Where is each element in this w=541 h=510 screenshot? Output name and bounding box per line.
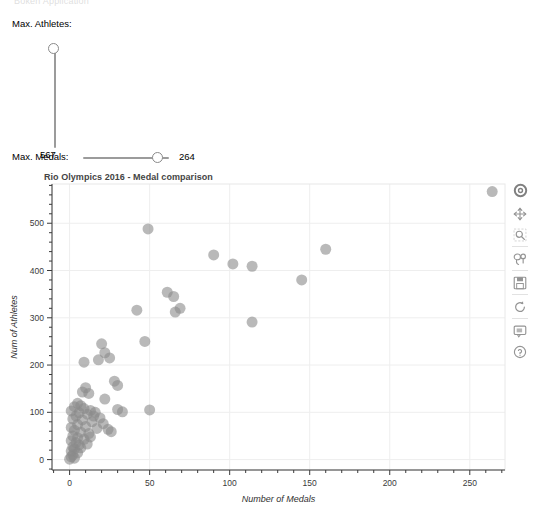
scatter-point [143, 223, 154, 234]
y-axis-title: Num of Athletes [9, 295, 19, 359]
scatter-point [227, 258, 238, 269]
toolbar-divider-4 [512, 318, 528, 319]
x-axis-tick-label: 50 [145, 478, 155, 488]
scatter-point [208, 249, 219, 260]
pan-move-icon[interactable] [509, 203, 531, 224]
max-athletes-slider-track[interactable] [54, 48, 56, 148]
max-medals-slider[interactable]: Max. Medals: 264 [12, 149, 222, 167]
bokeh-logo-icon [509, 180, 531, 201]
scatter-point [247, 317, 258, 328]
max-medals-slider-handle[interactable] [152, 152, 163, 163]
scatter-point [247, 261, 258, 272]
scatter-point [296, 274, 307, 285]
x-axis-tick-label: 200 [383, 478, 397, 488]
y-axis-tick-label: 300 [30, 313, 44, 323]
scatter-point [117, 406, 128, 417]
max-athletes-slider[interactable]: Max. Athletes: 567 [12, 18, 132, 143]
reset-icon[interactable] [509, 296, 531, 317]
save-disk-icon[interactable] [509, 272, 531, 293]
y-axis-tick-label: 500 [30, 218, 44, 228]
clipped-header-text: Bokeh Application [14, 0, 89, 6]
max-medals-slider-label: Max. Medals: [12, 151, 69, 162]
x-axis-tick-label: 100 [223, 478, 237, 488]
scatter-point [104, 352, 115, 363]
max-athletes-slider-label: Max. Athletes: [12, 18, 72, 29]
x-axis-tick-label: 0 [67, 478, 72, 488]
hover-icon[interactable] [509, 320, 531, 341]
help-icon[interactable] [509, 341, 531, 362]
scatter-plot-panel[interactable]: Rio Olympics 2016 - Medal comparison 050… [0, 172, 541, 510]
x-axis-tick-label: 250 [463, 478, 477, 488]
scatter-point [93, 354, 104, 365]
max-athletes-slider-handle[interactable] [48, 43, 59, 54]
scatter-point [112, 380, 123, 391]
scatter-point [75, 442, 86, 453]
y-axis-tick-label: 100 [30, 407, 44, 417]
bokeh-toolbar[interactable] [508, 180, 532, 362]
scatter-point [170, 307, 181, 318]
y-axis-tick-label: 400 [30, 266, 44, 276]
scatter-point [79, 357, 90, 368]
toolbar-divider-3 [512, 294, 528, 295]
toolbar-divider-1 [512, 246, 528, 247]
y-axis-tick-label: 200 [30, 360, 44, 370]
toolbar-divider-2 [512, 270, 528, 271]
scatter-point [131, 305, 142, 316]
scatter-point [139, 336, 150, 347]
scatter-point [144, 404, 155, 415]
scatter-point [103, 424, 114, 435]
box-zoom-icon[interactable] [509, 224, 531, 245]
scatter-point [99, 394, 110, 405]
y-axis-tick-label: 0 [39, 455, 44, 465]
plot-background [52, 184, 505, 470]
x-axis-tick-label: 150 [303, 478, 317, 488]
scatter-point [168, 291, 179, 302]
scatter-point [88, 411, 99, 422]
scatter-point [64, 454, 75, 465]
scatter-point [85, 431, 96, 442]
scatter-point [83, 388, 94, 399]
x-axis-title: Number of Medals [242, 494, 316, 504]
scatter-point [320, 244, 331, 255]
max-medals-slider-value: 264 [179, 151, 195, 162]
scatter-point [487, 186, 498, 197]
scatter-plot-canvas[interactable]: 0501001502002500100200300400500Number of… [0, 172, 541, 510]
lasso-select-icon[interactable] [509, 248, 531, 269]
